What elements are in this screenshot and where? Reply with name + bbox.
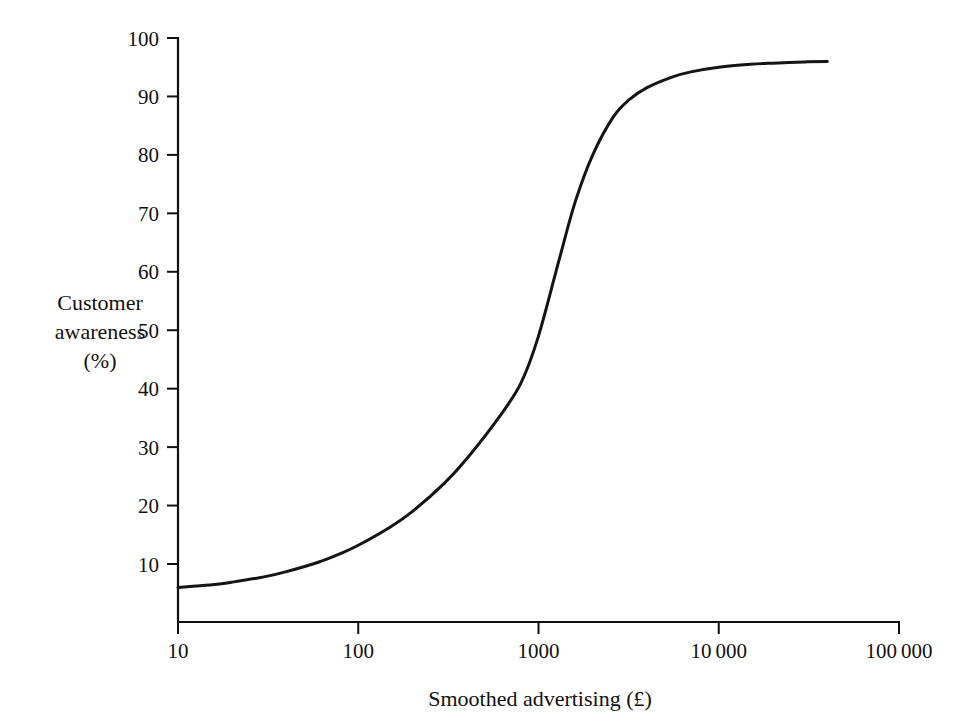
x-axis-title: Smoothed advertising (£) xyxy=(428,686,652,711)
chart-figure: 102030405060708090100 10100100010 000100… xyxy=(0,0,955,727)
x-tick-label-100: 100 xyxy=(343,639,375,663)
y-tick-label-10: 10 xyxy=(138,553,159,577)
y-tick-label-90: 90 xyxy=(138,85,159,109)
y-tick-label-80: 80 xyxy=(138,143,159,167)
y-tick-label-100: 100 xyxy=(128,27,160,51)
x-tick-label-10000: 10 000 xyxy=(690,639,747,663)
figure-background xyxy=(0,0,955,727)
y-tick-label-70: 70 xyxy=(138,202,159,226)
y-axis-title-line-2: awareness xyxy=(55,319,145,344)
y-axis-title-line-3: (%) xyxy=(84,348,117,373)
y-axis-title-line-1: Customer xyxy=(57,290,143,315)
x-tick-label-10: 10 xyxy=(168,639,189,663)
y-tick-label-40: 40 xyxy=(138,377,159,401)
y-tick-label-20: 20 xyxy=(138,494,159,518)
y-tick-label-30: 30 xyxy=(138,436,159,460)
chart-svg: 102030405060708090100 10100100010 000100… xyxy=(0,0,955,727)
x-tick-label-1000: 1000 xyxy=(518,639,560,663)
x-tick-label-100000: 100 000 xyxy=(865,639,932,663)
y-tick-label-60: 60 xyxy=(138,260,159,284)
